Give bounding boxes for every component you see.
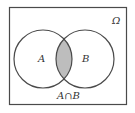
set-b-label: B xyxy=(81,53,89,64)
venn-diagram: Ω A B A∩B xyxy=(0,0,135,113)
intersection-caption: A∩B xyxy=(56,90,80,101)
set-a-label: A xyxy=(37,53,45,64)
universe-label: Ω xyxy=(111,15,120,26)
